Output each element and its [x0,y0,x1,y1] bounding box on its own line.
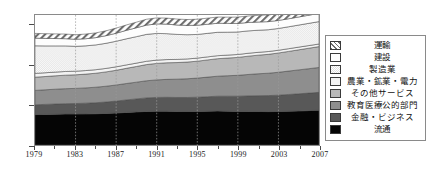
plot-area: 0100020003000 19791983198719911995199920… [0,0,330,176]
x-axis-tick-label: 1979 [26,150,43,159]
chart-root: 0100020003000 19791983198719911995199920… [0,0,430,176]
x-axis-minor-tick-mark [259,146,260,149]
x-axis-tick-mark [34,146,35,150]
legend-item-label: 金融・ビジネス [344,111,421,123]
legend-item-label: 農業・鉱業・電力 [344,75,421,87]
legend-swatch-icon [330,53,341,62]
legend-item-label: 流通 [344,123,421,135]
x-axis-tick-mark [116,146,117,150]
legend-swatch-icon [330,113,341,122]
x-axis-tick-label: 1983 [66,150,83,159]
legend-item-label: 製造業 [344,63,421,75]
x-axis-tick-label: 1995 [189,150,206,159]
legend-swatch-icon [330,65,341,74]
legend-item[interactable]: 農業・鉱業・電力 [330,75,421,87]
x-axis-minor-tick-mark [177,146,178,149]
x-axis-minor-tick-mark [300,146,301,149]
legend-item-label: 運輸 [344,39,421,51]
legend-item[interactable]: 建設 [330,51,421,63]
legend-item[interactable]: 教育医療公的部門 [330,99,421,111]
x-axis-tick-label: 1999 [230,150,247,159]
legend-swatch-icon [330,41,341,50]
legend-box: 運輸建設製造業農業・鉱業・電力その他サービス教育医療公的部門金融・ビジネス流通 [325,35,426,141]
x-axis-minor-tick-mark [136,146,137,149]
x-axis-tick-label: 2007 [312,150,329,159]
legend-item[interactable]: 運輸 [330,39,421,51]
legend-item-label: 教育医療公的部門 [344,99,421,111]
x-axis-tick-mark [320,146,321,150]
x-axis-labels: 19791983198719911995199920032007 [0,0,330,176]
legend-item-label: 建設 [344,51,421,63]
legend-item[interactable]: その他サービス [330,87,421,99]
x-axis-tick-mark [279,146,280,150]
legend-swatch-icon [330,77,341,86]
legend-swatch-icon [330,101,341,110]
x-axis-minor-tick-mark [95,146,96,149]
x-axis-tick-label: 2003 [271,150,288,159]
x-axis-minor-tick-mark [54,146,55,149]
legend-item[interactable]: 流通 [330,123,421,135]
legend-swatch-icon [330,125,341,134]
x-axis-tick-label: 1987 [107,150,124,159]
x-axis-tick-mark [75,146,76,150]
legend-item[interactable]: 製造業 [330,63,421,75]
x-axis-tick-label: 1991 [148,150,165,159]
legend-item-label: その他サービス [344,87,421,99]
x-axis-tick-mark [157,146,158,150]
x-axis-minor-tick-mark [218,146,219,149]
x-axis-tick-mark [197,146,198,150]
legend-swatch-icon [330,89,341,98]
x-axis-tick-mark [238,146,239,150]
legend-item[interactable]: 金融・ビジネス [330,111,421,123]
